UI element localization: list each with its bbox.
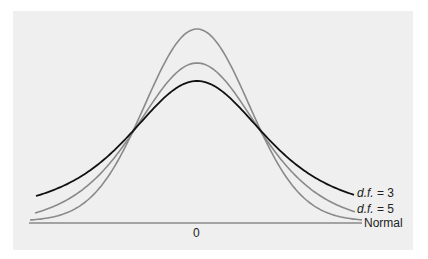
df3-suffix: = 3 <box>374 186 394 200</box>
df5-prefix: d.f. <box>357 202 374 216</box>
x-tick-label-zero: 0 <box>193 227 200 239</box>
t-df3-curve <box>36 81 354 196</box>
legend-label-normal: Normal <box>364 217 403 229</box>
legend-label-df3: d.f. = 3 <box>357 187 394 199</box>
t-df5-curve <box>35 63 355 213</box>
df5-suffix: = 5 <box>374 202 394 216</box>
legend-label-df5: d.f. = 5 <box>357 203 394 215</box>
df3-prefix: d.f. <box>357 186 374 200</box>
